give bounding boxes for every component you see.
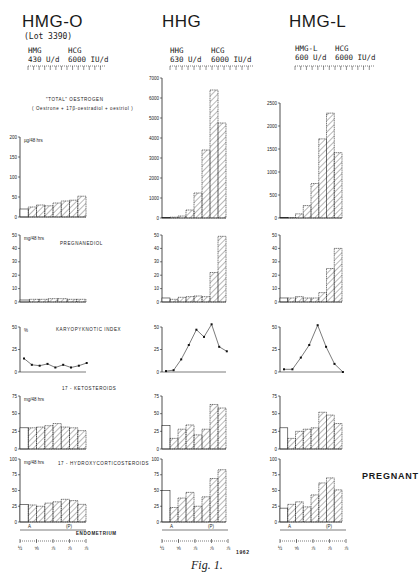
svg-text:50: 50 [154, 488, 160, 493]
svg-text:25: 25 [154, 347, 160, 352]
svg-text:75: 75 [12, 394, 18, 399]
svg-text:0: 0 [274, 216, 277, 221]
svg-text:0: 0 [14, 215, 17, 220]
svg-text:25: 25 [154, 429, 160, 434]
svg-text:100: 100 [269, 457, 277, 462]
svg-text:40: 40 [154, 246, 160, 251]
svg-text:mg/48 hrs: mg/48 hrs [24, 236, 45, 241]
svg-text:mg/48 hrs: mg/48 hrs [24, 397, 45, 402]
svg-text:20: 20 [12, 273, 18, 278]
svg-text:25: 25 [12, 347, 18, 352]
svg-text:⅞: ⅞ [209, 545, 214, 551]
svg-text:1000: 1000 [267, 170, 278, 175]
svg-text:50: 50 [272, 411, 278, 416]
svg-text:⅞: ⅞ [51, 545, 56, 551]
svg-text:A: A [288, 524, 291, 529]
svg-text:⅝: ⅝ [294, 545, 299, 551]
svg-text:10: 10 [272, 286, 278, 291]
svg-text:0: 0 [274, 447, 277, 452]
svg-text:0: 0 [156, 520, 159, 525]
svg-text:150: 150 [9, 155, 17, 160]
svg-text:50: 50 [272, 325, 278, 330]
svg-text:½: ½ [160, 545, 165, 551]
svg-text:50: 50 [272, 488, 278, 493]
svg-text:1000: 1000 [149, 196, 160, 201]
svg-text:30: 30 [154, 259, 160, 264]
svg-text:3000: 3000 [149, 156, 160, 161]
svg-text:0: 0 [156, 370, 159, 375]
svg-text:75: 75 [12, 472, 18, 477]
svg-text:0: 0 [156, 216, 159, 221]
svg-text:(P): (P) [326, 524, 333, 529]
svg-text:50: 50 [12, 233, 18, 238]
svg-text:25: 25 [154, 504, 160, 509]
svg-text:1500: 1500 [267, 147, 278, 152]
svg-text:50: 50 [12, 488, 18, 493]
svg-text:50: 50 [154, 233, 160, 238]
svg-text:50: 50 [12, 325, 18, 330]
svg-text:0: 0 [274, 300, 277, 305]
svg-text:0: 0 [14, 447, 17, 452]
svg-text:50: 50 [12, 195, 18, 200]
svg-text:⅝: ⅝ [176, 545, 181, 551]
svg-text:50: 50 [12, 411, 18, 416]
svg-text:10: 10 [154, 286, 160, 291]
svg-text:25: 25 [272, 347, 278, 352]
svg-text:50: 50 [154, 411, 160, 416]
svg-text:½: ½ [18, 545, 23, 551]
svg-text:2000: 2000 [149, 176, 160, 181]
svg-text:A: A [28, 524, 31, 529]
svg-text:2500: 2500 [267, 101, 278, 106]
svg-text:(P): (P) [66, 524, 73, 529]
svg-text:0: 0 [14, 300, 17, 305]
svg-text:mg/48 hrs: mg/48 hrs [24, 460, 45, 465]
svg-text:25: 25 [272, 504, 278, 509]
svg-text:7000: 7000 [149, 76, 160, 81]
svg-text:0: 0 [274, 520, 277, 525]
svg-text:25: 25 [12, 504, 18, 509]
svg-text:100: 100 [151, 457, 159, 462]
svg-text:50: 50 [154, 325, 160, 330]
svg-text:200: 200 [9, 135, 17, 140]
svg-text:%: % [24, 328, 28, 333]
svg-text:µg/48 hrs: µg/48 hrs [24, 138, 44, 143]
svg-text:½: ½ [278, 545, 283, 551]
svg-text:100: 100 [9, 175, 17, 180]
svg-text:30: 30 [12, 259, 18, 264]
svg-text:30: 30 [272, 259, 278, 264]
svg-text:25: 25 [12, 429, 18, 434]
svg-text:20: 20 [154, 273, 160, 278]
svg-text:6000: 6000 [149, 96, 160, 101]
svg-text:A: A [170, 524, 173, 529]
svg-text:0: 0 [274, 370, 277, 375]
svg-text:75: 75 [272, 394, 278, 399]
svg-text:20: 20 [272, 273, 278, 278]
svg-text:5000: 5000 [149, 116, 160, 121]
svg-text:0: 0 [156, 447, 159, 452]
svg-text:2000: 2000 [267, 124, 278, 129]
svg-text:⅞: ⅞ [327, 545, 332, 551]
svg-text:10: 10 [12, 286, 18, 291]
svg-text:⅞: ⅞ [344, 545, 349, 551]
svg-text:⅞: ⅞ [84, 545, 89, 551]
svg-text:500: 500 [269, 193, 277, 198]
svg-text:40: 40 [12, 246, 18, 251]
svg-text:⅞: ⅞ [193, 545, 198, 551]
svg-text:⅝: ⅝ [34, 545, 39, 551]
svg-text:75: 75 [154, 472, 160, 477]
svg-text:40: 40 [272, 246, 278, 251]
svg-text:25: 25 [272, 429, 278, 434]
svg-text:⅞: ⅞ [226, 545, 231, 551]
svg-text:75: 75 [272, 472, 278, 477]
svg-text:(P): (P) [208, 524, 215, 529]
svg-text:0: 0 [156, 300, 159, 305]
svg-text:⅞: ⅞ [311, 545, 316, 551]
svg-text:50: 50 [272, 233, 278, 238]
svg-text:0: 0 [14, 370, 17, 375]
svg-text:100: 100 [9, 457, 17, 462]
svg-text:0: 0 [14, 520, 17, 525]
svg-text:75: 75 [154, 394, 160, 399]
svg-text:⅞: ⅞ [67, 545, 72, 551]
svg-text:4000: 4000 [149, 136, 160, 141]
